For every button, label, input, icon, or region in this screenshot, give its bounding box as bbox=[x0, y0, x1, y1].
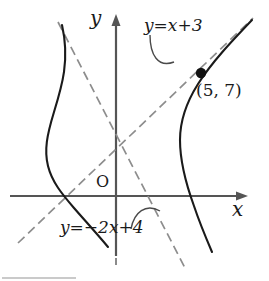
asymptote-2-label: y=−2x+4 bbox=[60, 219, 144, 236]
figure-canvas bbox=[0, 0, 269, 281]
asymptote-rising-y-equals-x-plus-3 bbox=[18, 18, 253, 243]
y-axis-label: y bbox=[90, 8, 101, 28]
x-axis-label: x bbox=[232, 199, 243, 219]
hyperbola-left-branch bbox=[46, 25, 108, 247]
leader-lines-group bbox=[131, 35, 174, 229]
point-coordinate-label: (5, 7) bbox=[196, 82, 242, 99]
leader-line-asymptote-1 bbox=[150, 35, 174, 63]
y-axis-arrowhead bbox=[112, 14, 121, 26]
math-figure-hyperbola: y x O y=x+3 (5, 7) y=−2x+4 bbox=[0, 0, 269, 281]
asymptote-1-label: y=x+3 bbox=[144, 17, 203, 34]
marked-point-dot bbox=[196, 68, 206, 78]
origin-label: O bbox=[96, 174, 109, 190]
